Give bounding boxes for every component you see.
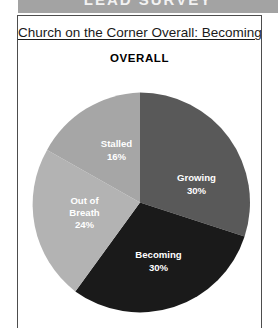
pie-label-becoming-name: Becoming — [135, 249, 182, 260]
pie-label-growing-value: 30% — [186, 185, 206, 196]
pie-label-stalled-value: 16% — [106, 151, 126, 162]
pie-label-out-of-breath-value: 24% — [74, 219, 94, 230]
top-banner: LEAD SURVEY — [18, 0, 278, 13]
pie-label-growing-name: Growing — [177, 172, 216, 183]
banner-title: LEAD SURVEY — [18, 0, 278, 8]
pie-chart: Growing 30% Becoming 30% Out of Breath 2… — [18, 73, 261, 328]
page-title: Church on the Corner Overall: Becoming — [18, 25, 261, 40]
chart-title: OVERALL — [18, 52, 261, 64]
pie-chart-svg: Growing 30% Becoming 30% Out of Breath 2… — [18, 73, 261, 328]
pie-label-becoming-value: 30% — [148, 262, 168, 273]
pie-label-stalled-name: Stalled — [100, 138, 132, 149]
slide-panel: Church on the Corner Overall: Becoming O… — [17, 15, 262, 328]
pie-label-out-of-breath-line2: Breath — [69, 207, 100, 218]
pie-label-out-of-breath-line1: Out of — [70, 195, 99, 206]
